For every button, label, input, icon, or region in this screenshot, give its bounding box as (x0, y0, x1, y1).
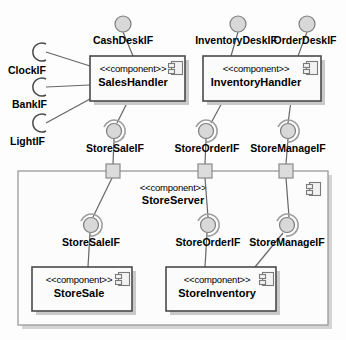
store-server-stereotype: <<component>> (140, 182, 207, 193)
store-sale-if-upper-label: StoreSaleIF (86, 142, 144, 154)
port-store-manage[interactable] (279, 164, 293, 178)
conn-clockif-sales (46, 52, 90, 66)
conn-bankif-sales (46, 85, 90, 87)
component-store-inventory[interactable]: <<component>> StoreInventory (166, 267, 280, 315)
provided-interface-inventory-desk-if[interactable]: InventoryDeskIF (195, 16, 277, 46)
provided-interface-cash-desk-if[interactable]: CashDeskIF (93, 16, 154, 46)
order-desk-if-label: OrderDeskIF (273, 34, 337, 46)
component-icon (304, 62, 318, 75)
store-order-if-lower-label: StoreOrderIF (176, 236, 241, 248)
port-store-order[interactable] (198, 164, 212, 178)
store-manage-if-upper-label: StoreManageIF (250, 142, 326, 154)
conn-lightif-sales (46, 99, 90, 123)
store-inventory-name: StoreInventory (178, 287, 257, 299)
assembly-store-order-if-upper[interactable]: StoreOrderIF (175, 120, 240, 154)
light-if-label: LightIF (10, 135, 46, 147)
store-order-if-upper-label: StoreOrderIF (175, 142, 240, 154)
clock-if-label: ClockIF (8, 64, 47, 76)
component-store-sale[interactable]: <<component>> StoreSale (32, 267, 136, 315)
inventory-handler-name: InventoryHandler (211, 76, 302, 88)
component-sales-handler[interactable]: <<component>> SalesHandler (90, 56, 189, 105)
cash-desk-if-label: CashDeskIF (93, 34, 154, 46)
sales-handler-name: SalesHandler (98, 76, 168, 88)
inventory-desk-if-label: InventoryDeskIF (195, 34, 277, 46)
store-sale-name: StoreSale (54, 287, 105, 299)
store-sale-if-lower-label: StoreSaleIF (62, 236, 120, 248)
inventory-handler-stereotype: <<component>> (223, 63, 290, 74)
component-icon (116, 273, 130, 286)
sales-handler-stereotype: <<component>> (100, 63, 167, 74)
store-sale-stereotype: <<component>> (46, 274, 113, 285)
diagram-canvas: <<component>> StoreServer (0, 0, 346, 340)
uml-component-diagram: <<component>> StoreServer (0, 0, 346, 340)
assembly-store-manage-if-upper[interactable]: StoreManageIF (250, 120, 326, 154)
required-interface-clock-if[interactable]: ClockIF (8, 43, 47, 76)
component-icon (260, 273, 274, 286)
provided-interface-order-desk-if[interactable]: OrderDeskIF (273, 16, 337, 46)
store-inventory-stereotype: <<component>> (184, 274, 251, 285)
bank-if-label: BankIF (12, 98, 48, 110)
component-icon (169, 62, 183, 75)
store-server-name: StoreServer (142, 194, 205, 206)
assembly-store-sale-if-upper[interactable]: StoreSaleIF (86, 120, 144, 154)
required-interface-light-if[interactable]: LightIF (10, 114, 46, 147)
component-icon (307, 183, 321, 196)
required-interface-bank-if[interactable]: BankIF (12, 78, 48, 110)
port-store-sale[interactable] (106, 164, 120, 178)
component-inventory-handler[interactable]: <<component>> InventoryHandler (203, 56, 325, 105)
store-manage-if-lower-label: StoreManageIF (249, 236, 325, 248)
